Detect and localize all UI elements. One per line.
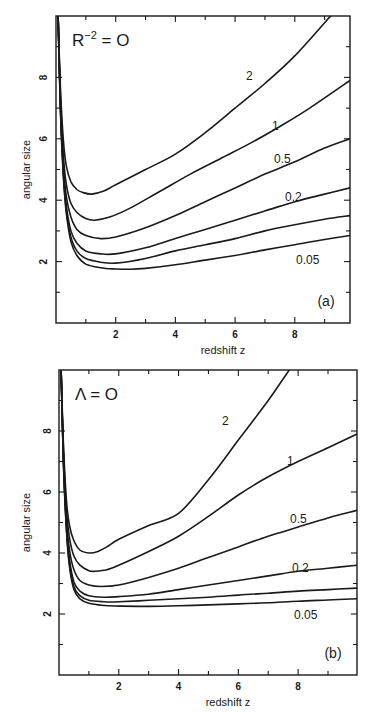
y-tick-label: 4: [39, 197, 50, 203]
curve-label: 0.2: [285, 190, 302, 204]
y-tick-label: 4: [42, 550, 53, 556]
x-tick-label: 6: [236, 681, 242, 692]
curves: [58, 16, 350, 269]
x-tick-label: 4: [176, 681, 182, 692]
curve-label: 1: [287, 454, 294, 468]
model-annotation: Λ = O: [75, 385, 118, 404]
x-tick-label: 2: [116, 681, 122, 692]
panel-a-chart: 24682468redshift zangular size210.50.20.…: [20, 16, 350, 356]
plot-frame: [56, 16, 350, 323]
x-axis-label: redshift z: [206, 696, 251, 708]
x-tick-label: 6: [232, 329, 238, 340]
y-axis-label: angular size: [20, 493, 32, 552]
panel-b-chart: 24682468redshift zangular size210.50.20.…: [20, 370, 357, 708]
y-tick-label: 2: [42, 611, 53, 617]
curves: [61, 370, 357, 606]
x-axis-label: redshift z: [201, 344, 246, 356]
x-tick-label: 2: [113, 329, 119, 340]
curve-label: 0.2: [292, 561, 309, 575]
curve-0_1: [58, 16, 350, 263]
y-tick-label: 8: [42, 428, 53, 434]
x-tick-label: 8: [292, 329, 298, 340]
panel-label: (a): [317, 293, 334, 309]
y-tick-label: 2: [39, 258, 50, 264]
model-annotation: R−2 = O: [72, 29, 129, 50]
curve-0_05: [58, 16, 350, 269]
x-tick-label: 8: [295, 681, 301, 692]
figure: 24682468redshift zangular size210.50.20.…: [0, 0, 372, 712]
curve-label: 2: [222, 414, 229, 428]
curve-label: 0.5: [274, 152, 291, 166]
curve-0_05: [61, 370, 357, 606]
panel-label: (b): [324, 645, 341, 661]
curve-label: 0.05: [296, 253, 320, 267]
curve-label: 0.5: [290, 512, 307, 526]
curve-label: 2: [246, 69, 253, 83]
curve-0_2: [61, 370, 357, 597]
curve-label: 0.05: [294, 608, 318, 622]
x-tick-label: 4: [173, 329, 179, 340]
y-tick-label: 6: [39, 136, 50, 142]
y-axis-label: angular size: [20, 140, 32, 199]
curve-label: 1: [272, 119, 279, 133]
y-tick-label: 6: [42, 489, 53, 495]
curve-0_1: [61, 370, 357, 602]
y-tick-label: 8: [39, 74, 50, 80]
